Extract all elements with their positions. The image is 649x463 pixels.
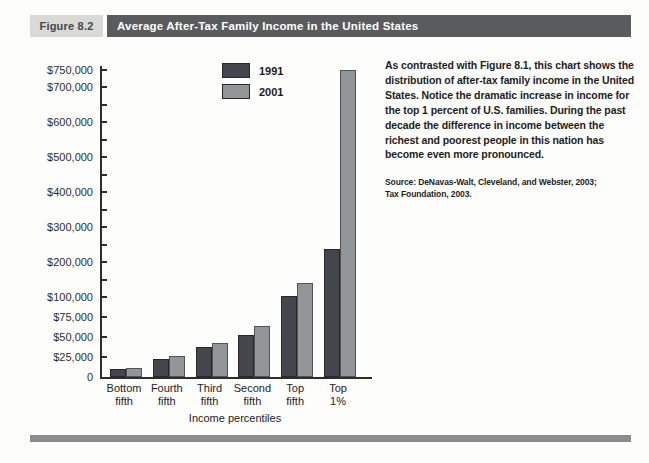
bar-1991-third-fifth bbox=[196, 347, 212, 377]
category-label-line2: fifth bbox=[228, 395, 276, 408]
category-label-line1: Fourth bbox=[143, 382, 191, 395]
category-label-line2: fifth bbox=[100, 395, 148, 408]
description-paragraph: As contrasted with Figure 8.1, this char… bbox=[385, 58, 635, 162]
bar-2001-fourth-fifth bbox=[169, 356, 185, 377]
category-label: Fourthfifth bbox=[143, 382, 191, 408]
y-tick-label: $750,000 bbox=[0, 63, 93, 77]
bar-2001-second-fifth bbox=[254, 326, 270, 377]
bar-1991-top-1- bbox=[324, 249, 340, 377]
bar-2001-third-fifth bbox=[212, 343, 228, 377]
y-tick-label: $400,000 bbox=[0, 185, 93, 199]
category-label-line2: fifth bbox=[271, 395, 319, 408]
figure-title: Average After-Tax Family Income in the U… bbox=[117, 20, 418, 32]
x-axis-title: Income percentiles bbox=[100, 412, 370, 424]
y-tick-label: $500,000 bbox=[0, 150, 93, 164]
category-label-line1: Third bbox=[186, 382, 234, 395]
figure-label: Figure 8.2 bbox=[30, 15, 103, 37]
category-label-line2: fifth bbox=[186, 395, 234, 408]
category-label: Bottomfifth bbox=[100, 382, 148, 408]
y-tick-label: $100,000 bbox=[0, 290, 93, 304]
bar-1991-second-fifth bbox=[238, 335, 254, 377]
bar-2001-bottom-fifth bbox=[126, 368, 142, 377]
category-label-line2: 1% bbox=[314, 395, 362, 408]
category-label-line1: Second bbox=[228, 382, 276, 395]
bar-1991-fourth-fifth bbox=[153, 359, 169, 377]
y-tick-label: $25,000 bbox=[0, 350, 93, 364]
y-tick-label: $200,000 bbox=[0, 255, 93, 269]
y-tick-label: $300,000 bbox=[0, 220, 93, 234]
bottom-rule bbox=[30, 435, 631, 442]
category-label: Top1% bbox=[314, 382, 362, 408]
bar-chart-plot-area bbox=[100, 66, 372, 379]
category-label-line1: Top bbox=[271, 382, 319, 395]
category-label-line1: Top bbox=[314, 382, 362, 395]
category-label: Topfifth bbox=[271, 382, 319, 408]
source-note: Source: DeNavas-Walt, Cleveland, and Web… bbox=[385, 177, 635, 201]
source-line-2: Tax Foundation, 2003. bbox=[385, 189, 635, 201]
category-label-line1: Bottom bbox=[100, 382, 148, 395]
source-line-1: Source: DeNavas-Walt, Cleveland, and Web… bbox=[385, 177, 635, 189]
y-tick-label: $75,000 bbox=[0, 310, 93, 324]
bar-1991-top-fifth bbox=[281, 296, 297, 377]
category-label-line2: fifth bbox=[143, 395, 191, 408]
bar-2001-top-1- bbox=[340, 70, 356, 378]
bar-2001-top-fifth bbox=[297, 283, 313, 377]
category-label: Secondfifth bbox=[228, 382, 276, 408]
y-tick-label: 0 bbox=[0, 370, 93, 384]
y-tick-label: $50,000 bbox=[0, 330, 93, 344]
figure-title-bar: Average After-Tax Family Income in the U… bbox=[107, 15, 631, 37]
y-tick-label: $700,000 bbox=[0, 80, 93, 94]
category-label: Thirdfifth bbox=[186, 382, 234, 408]
bar-1991-bottom-fifth bbox=[110, 369, 126, 377]
y-tick-label: $600,000 bbox=[0, 115, 93, 129]
